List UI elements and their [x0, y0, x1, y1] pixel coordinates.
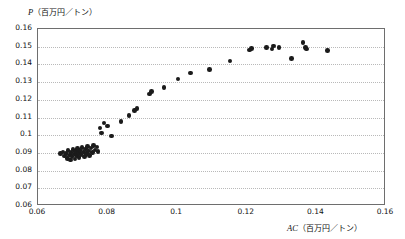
- x-tick-label: 0.16: [365, 207, 405, 216]
- y-tick-label: 0.12: [2, 94, 32, 103]
- data-point: [99, 131, 104, 136]
- y-tick-label: 0.07: [2, 182, 32, 191]
- data-point: [119, 119, 124, 124]
- y-tick-label: 0.15: [2, 41, 32, 50]
- x-tick-label: 0.06: [17, 207, 57, 216]
- x-tick-label: 0.14: [295, 207, 335, 216]
- x-axis-variable: AC: [287, 223, 298, 233]
- data-point: [188, 71, 193, 76]
- x-tick-label: 0.08: [87, 207, 127, 216]
- data-point: [105, 124, 110, 129]
- data-point: [325, 48, 330, 53]
- data-points-layer: [38, 29, 384, 204]
- x-tick-label: 0.12: [226, 207, 266, 216]
- y-tick-label: 0.1: [2, 129, 32, 138]
- data-point: [127, 113, 132, 118]
- data-point: [271, 44, 276, 49]
- data-point: [207, 67, 212, 72]
- scatter-chart-figure: P（百万円／トン） AC（百万円／トン） 0.060.070.080.090.1…: [0, 0, 405, 239]
- y-tick-label: 0.09: [2, 147, 32, 156]
- y-tick-label: 0.16: [2, 23, 32, 32]
- data-point: [301, 40, 306, 45]
- y-tick-label: 0.14: [2, 58, 32, 67]
- data-point: [149, 89, 154, 94]
- x-axis-title: AC（百万円／トン）: [287, 222, 362, 233]
- x-axis-units: （百万円／トン）: [298, 224, 362, 233]
- data-point: [98, 126, 103, 131]
- y-tick-label: 0.11: [2, 112, 32, 121]
- y-tick-label: 0.08: [2, 165, 32, 174]
- y-axis-title: P（百万円／トン）: [28, 6, 97, 17]
- y-axis-units: （百万円／トン）: [33, 8, 97, 17]
- data-point: [96, 149, 101, 154]
- data-point: [304, 47, 309, 52]
- plot-area: [37, 28, 385, 205]
- data-point: [289, 56, 294, 61]
- data-point: [264, 45, 269, 50]
- y-tick-label: 0.13: [2, 76, 32, 85]
- data-point: [176, 77, 181, 82]
- data-point: [249, 46, 254, 51]
- data-point: [162, 85, 167, 90]
- data-point: [109, 134, 114, 139]
- data-point: [135, 106, 140, 111]
- data-point: [228, 59, 233, 64]
- data-point: [277, 45, 282, 50]
- x-tick-label: 0.1: [156, 207, 196, 216]
